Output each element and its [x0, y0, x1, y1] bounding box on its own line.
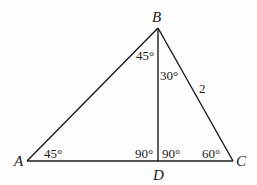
angle-label-bdc: 90°: [162, 146, 180, 161]
segment-bc: [158, 28, 233, 161]
vertex-label-d: D: [152, 167, 164, 183]
vertex-label-c: C: [236, 153, 247, 169]
diagram-canvas: B A C D 45° 45° 30° 90° 90° 60° 2: [0, 0, 257, 185]
vertex-label-b: B: [152, 9, 161, 25]
triangle-diagram: B A C D 45° 45° 30° 90° 90° 60° 2: [0, 0, 257, 185]
angle-label-a: 45°: [44, 146, 62, 161]
side-label-bc: 2: [199, 81, 206, 96]
angle-label-dbc: 30°: [160, 68, 178, 83]
angle-label-c: 60°: [202, 146, 220, 161]
angle-label-adb: 90°: [135, 146, 153, 161]
vertex-label-a: A: [13, 153, 24, 169]
angle-label-abd: 45°: [136, 48, 154, 63]
